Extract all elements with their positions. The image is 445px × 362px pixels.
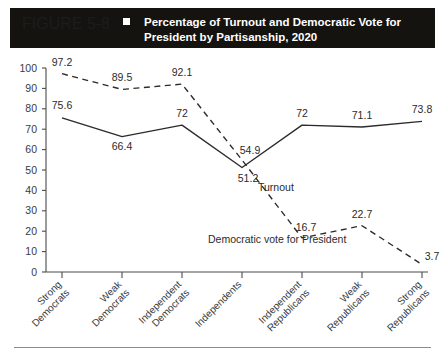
point-value-label: 72	[176, 107, 188, 119]
point-value-label: 66.4	[112, 140, 133, 152]
point-value-label: 22.7	[352, 208, 373, 220]
x-axis-category-labels: StrongDemocratsWeakDemocratsIndependentD…	[21, 278, 431, 334]
point-value-label: 75.6	[52, 99, 73, 111]
figure-title-line-2: President by Partisanship, 2020	[144, 30, 425, 45]
point-value-label: 54.9	[240, 144, 261, 156]
series-annotation-democratic-vote: Democratic vote for President	[208, 233, 346, 245]
point-value-label: 92.1	[172, 66, 193, 78]
x-axis-ticks	[62, 272, 422, 278]
square-icon	[123, 18, 130, 25]
x-axis-category-label: IndependentDemocrats	[136, 278, 191, 333]
chart-container: 1009080706050403020100 75.666.47251.2727…	[0, 50, 445, 340]
y-axis: 1009080706050403020100	[19, 62, 46, 278]
y-axis-tick-label: 20	[25, 225, 37, 237]
figure-number: FIGURE 5-8	[22, 15, 110, 33]
point-value-label: 51.2	[238, 172, 259, 184]
point-value-label: 73.8	[412, 103, 433, 115]
y-axis-tick-label: 60	[25, 143, 37, 155]
x-axis-category-label: StrongDemocrats	[21, 279, 71, 329]
point-value-label: 3.7	[425, 250, 440, 262]
x-axis-category-label: WeakRepublicans	[317, 278, 373, 334]
category-label-line: Independents	[193, 279, 244, 330]
point-value-label: 89.5	[112, 71, 133, 83]
data-point-labels: 75.666.47251.27271.173.897.289.592.154.9…	[52, 56, 440, 263]
figure-title-line-1: Percentage of Turnout and Democratic Vot…	[144, 15, 425, 30]
series-annotation-turnout: Turnout	[258, 181, 294, 193]
y-axis-tick-label: 10	[25, 245, 37, 257]
y-axis-tick-label: 30	[25, 204, 37, 216]
y-axis-tick-label: 0	[31, 266, 37, 278]
y-axis-tick-label: 100	[19, 62, 37, 74]
x-axis-category-label: IndependentRepublicans	[256, 278, 311, 333]
figure-header: FIGURE 5-8 Percentage of Turnout and Dem…	[10, 8, 435, 48]
point-value-label: 16.7	[296, 221, 317, 233]
figure-title: Percentage of Turnout and Democratic Vot…	[144, 15, 425, 44]
y-axis-tick-label: 70	[25, 123, 37, 135]
point-value-label: 71.1	[352, 109, 373, 121]
x-axis-category-label: WeakDemocrats	[81, 278, 132, 329]
y-axis-tick-label: 40	[25, 184, 37, 196]
x-axis-category-label: Independents	[193, 279, 244, 330]
footer-divider	[14, 347, 431, 348]
y-axis-tick-label: 50	[25, 164, 37, 176]
line-chart: 1009080706050403020100 75.666.47251.2727…	[0, 50, 445, 340]
y-axis-tick-label: 80	[25, 102, 37, 114]
point-value-label: 72	[296, 107, 308, 119]
point-value-label: 97.2	[52, 56, 73, 68]
y-axis-tick-label: 90	[25, 82, 37, 94]
x-axis-category-label: StrongRepublicans	[377, 279, 432, 334]
